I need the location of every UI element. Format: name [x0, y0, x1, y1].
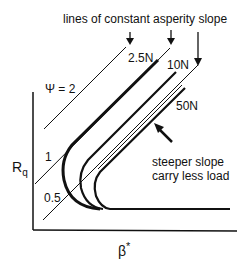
arrow-up-left-icon — [154, 123, 172, 142]
arrow-down-icon — [167, 30, 175, 45]
title-annotation: lines of constant asperity slope — [63, 13, 227, 26]
arrow-down-icon — [194, 32, 202, 66]
load-label-10N: 10N — [167, 59, 189, 72]
diagram-canvas — [0, 0, 250, 267]
curve-2-5N — [63, 60, 158, 209]
y-axis-label: Rq — [12, 161, 28, 179]
x-axis-label: β* — [118, 240, 130, 258]
note-line-1: steeper slope — [152, 156, 224, 169]
arrow-down-icon — [126, 32, 134, 45]
x-axis — [33, 230, 237, 231]
load-label-2-5N: 2.5N — [128, 52, 153, 65]
slope-label-05: 0.5 — [44, 192, 61, 205]
note-line-2: carry less load — [152, 170, 229, 183]
load-label-50N: 50N — [176, 100, 198, 113]
slope-label-1: 1 — [45, 151, 52, 164]
psi-label: Ψ = 2 — [45, 83, 75, 96]
